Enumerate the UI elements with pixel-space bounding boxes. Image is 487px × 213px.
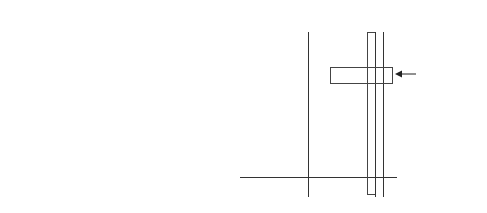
- parity-column-divider: [308, 32, 309, 197]
- figure-caption: [18, 12, 208, 26]
- sum-divider-line: [313, 177, 397, 178]
- column-guide-line: [375, 32, 376, 197]
- arrow-left-icon: [395, 69, 417, 79]
- parity-column-divider: [383, 32, 384, 197]
- sum-divider-line: [240, 177, 322, 178]
- failing-row-highlight: [330, 67, 393, 84]
